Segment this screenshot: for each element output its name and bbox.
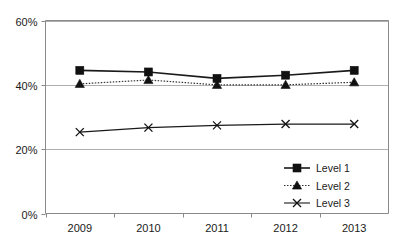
y-tick-label: 40% <box>15 80 37 92</box>
chart-container: 60%40%20%0% 20092010201120122013 Level 1… <box>0 0 401 248</box>
x-tick-label-2009: 2009 <box>68 222 92 234</box>
y-tick-label: 60% <box>15 16 37 28</box>
legend-label: Level 2 <box>316 180 350 192</box>
data-point-s1-2013 <box>350 66 358 74</box>
legend-marker-square-icon <box>293 164 301 172</box>
x-tick-label-2013: 2013 <box>342 222 366 234</box>
legend-label: Level 3 <box>316 197 350 209</box>
y-tick-label: 20% <box>15 144 37 156</box>
data-point-s1-2012 <box>282 71 290 79</box>
legend-item-level-1[interactable]: Level 1 <box>284 162 350 174</box>
line-chart: 60%40%20%0% 20092010201120122013 Level 1… <box>0 0 401 248</box>
legend-label: Level 1 <box>316 162 350 174</box>
data-point-s1-2010 <box>144 68 152 76</box>
x-tick-label-2010: 2010 <box>136 222 160 234</box>
y-tick-label: 0% <box>22 209 38 221</box>
x-tick-label-2011: 2011 <box>205 222 229 234</box>
data-point-s1-2009 <box>76 66 84 74</box>
x-tick-label-2012: 2012 <box>273 222 297 234</box>
